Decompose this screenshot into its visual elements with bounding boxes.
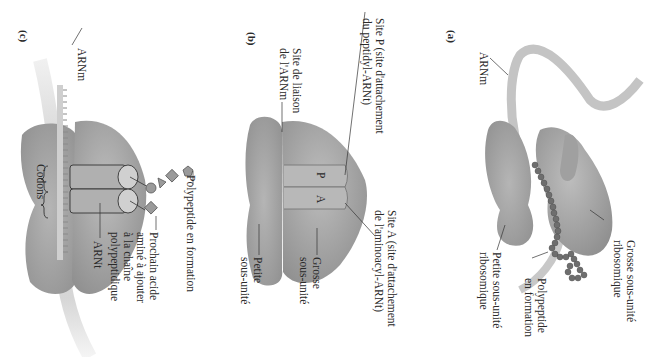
panel-c-letter: (c) <box>18 30 31 42</box>
large-subunit-a-label-line1: Grosse sous-unité <box>625 240 638 322</box>
polypeptide-label-c: Polypeptide en formation <box>185 175 198 292</box>
p-site-letter: P <box>315 172 328 178</box>
small-subunit-label-line2: sous-unité <box>239 257 252 304</box>
small-subunit-label-line1: Petite <box>252 257 265 283</box>
large-subunit-a-label-line2: ribosomique <box>612 240 625 298</box>
trna-label: ARNt <box>92 241 105 268</box>
mrna-site-label-line2: de l'ARNm <box>278 48 291 100</box>
next-aa-label-line2: aminé à ajouter <box>135 232 148 303</box>
next-aa-label-line3: à la chaîne <box>122 232 135 281</box>
codons-label: Codons <box>35 164 48 199</box>
amino-acid <box>146 183 156 193</box>
a-site-label-line1: Site A (site d'attachement <box>386 210 399 327</box>
p-site-label-line1: Site P (site d'attachement <box>374 18 387 134</box>
next-aa-label-line1: Prochain acide <box>148 232 161 300</box>
small-subunit-a-label-line2: ribosomique <box>478 252 491 310</box>
panel-b-letter: (b) <box>246 32 259 45</box>
next-amino-acid <box>145 201 158 214</box>
panel-a-letter: (a) <box>446 30 459 43</box>
mrna-site-label-line1: Site de liaison <box>291 48 304 113</box>
polypeptide-a-label-line1: Polypeptide <box>536 278 549 333</box>
a-site-letter: A <box>315 195 328 203</box>
small-subunit-c <box>21 124 78 295</box>
mrna-label-c: ARNm <box>76 48 89 81</box>
next-aa-label-line4: polypeptidique <box>109 232 122 301</box>
mrna-label-a: ARNm <box>478 52 491 85</box>
large-subunit-label-line2: sous-unité <box>298 257 311 304</box>
panel-b-art <box>245 12 375 286</box>
small-subunit-a <box>485 121 533 246</box>
large-subunit-label-line1: Grosse <box>311 257 324 289</box>
p-site-label-line2: du peptidyl-ARNt) <box>361 18 374 105</box>
a-site-label-line2: de l'aminoacyl-ARNt) <box>373 210 386 312</box>
polypeptide-a-label-line2: en formation <box>523 278 536 337</box>
ribosome-figure <box>0 0 660 357</box>
small-subunit-a-label-line1: Petite sous-unité <box>491 252 504 328</box>
